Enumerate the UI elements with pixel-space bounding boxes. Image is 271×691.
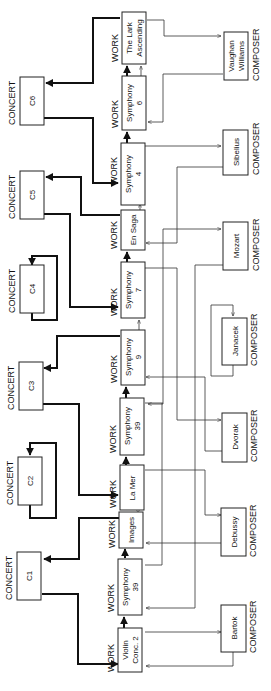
edge-c3-to-lamer: [42, 404, 118, 495]
concert-c1[interactable]: CONCERT C1: [4, 552, 41, 600]
concert-type-label: CONCERT: [4, 555, 14, 600]
edge-c6-to-sym4: [44, 118, 118, 183]
composer-name-line1: Mozart: [232, 233, 241, 258]
work-title-line1: Symphony: [124, 271, 133, 309]
composer-type-label: COMPOSER: [249, 409, 259, 462]
edge-sym7-to-dvorak: [145, 268, 221, 420]
work-title-line2: 39: [131, 582, 140, 591]
work-title-line2: 9: [134, 354, 143, 359]
work-title-line1: Symphony: [123, 407, 132, 445]
edge-dvorak-to-sym9: [146, 377, 223, 451]
work-type-label: WORK: [109, 221, 119, 249]
edge-vw-to-sym6: [148, 74, 223, 122]
composer-name-line1: Janacek: [231, 325, 240, 356]
work-type-label: WORK: [109, 157, 119, 185]
concert-c3[interactable]: CONCERT C3: [6, 362, 43, 410]
concert-id: C2: [26, 475, 35, 486]
work-type-label: WORK: [106, 644, 116, 672]
composer-bartok[interactable]: Bartok COMPOSER: [221, 600, 258, 653]
edge-mozart-to-sym39b: [146, 265, 223, 608]
concert-type-label: CONCERT: [7, 80, 17, 125]
composer-janacek[interactable]: Janacek COMPOSER: [222, 313, 259, 366]
work-symphony-4[interactable]: WORK Symphony 4: [109, 143, 145, 205]
work-title-line1: Images: [127, 517, 136, 543]
composer-name-line1: Debussy: [230, 516, 239, 547]
composer-name-line1: Sibelius: [232, 138, 241, 166]
work-type-label: WORK: [106, 584, 116, 612]
work-title-line1: En Saga: [129, 214, 138, 245]
work-type-label: WORK: [108, 425, 118, 453]
work-violin-concerto-2[interactable]: WORK Violin Conc. 2: [106, 628, 142, 672]
concert-id: C5: [28, 189, 37, 200]
concert-c6[interactable]: CONCERT C6: [7, 77, 44, 125]
work-title-line1: La Mer: [128, 475, 137, 500]
work-title-line1: Symphony: [125, 84, 134, 122]
work-title-line2: 39: [133, 421, 142, 430]
edge-lark-to-vw: [147, 20, 221, 36]
composer-sibelius[interactable]: Sibelius COMPOSER: [223, 122, 261, 175]
concert-type-label: CONCERT: [7, 268, 17, 313]
concert-id: C3: [27, 380, 36, 391]
composer-name-line2: Williams: [237, 41, 246, 71]
work-title-line2: Ascending: [135, 19, 144, 56]
work-title-line2: 7: [134, 287, 143, 292]
composer-name-line1: Vaughan: [227, 40, 236, 71]
work-title-line2: 4: [134, 171, 143, 176]
concert-type-label: CONCERT: [6, 365, 16, 410]
work-type-label: WORK: [110, 100, 120, 128]
concert-type-label: CONCERT: [7, 174, 17, 219]
composer-vaughan-williams[interactable]: Vaughan Williams COMPOSER: [224, 28, 261, 81]
work-type-label: WORK: [109, 355, 119, 383]
work-title-line1: Symphony: [121, 568, 130, 606]
composer-type-label: COMPOSER: [249, 313, 259, 366]
concert-work-composer-diagram: CONCERT C6 CONCERT C5 CONCERT C4 CONCERT…: [0, 0, 271, 691]
concert-type-label: CONCERT: [5, 460, 15, 505]
work-type-label: WORK: [110, 34, 120, 62]
composer-type-label: COMPOSER: [251, 122, 261, 175]
composer-type-label: COMPOSER: [251, 218, 261, 271]
work-type-label: WORK: [107, 520, 117, 548]
work-title-line2: Conc. 2: [131, 636, 140, 664]
work-title-line2: 6: [135, 100, 144, 105]
concert-c4[interactable]: CONCERT C4: [7, 265, 44, 313]
work-type-label: WORK: [108, 480, 118, 508]
edge-bartok-to-violin: [146, 652, 233, 666]
work-title-line1: Symphony: [124, 338, 133, 376]
composer-debussy[interactable]: Debussy COMPOSER: [221, 504, 258, 557]
work-symphony-9[interactable]: WORK Symphony 9: [109, 330, 145, 385]
work-symphony-6[interactable]: WORK Symphony 6: [110, 76, 146, 130]
edge-lamer-to-debussy: [145, 470, 221, 515]
work-symphony-39-b[interactable]: WORK Symphony 39: [106, 559, 142, 615]
composer-mozart[interactable]: Mozart COMPOSER: [223, 218, 261, 271]
work-type-label: WORK: [109, 288, 119, 316]
composer-type-label: COMPOSER: [251, 28, 261, 81]
composer-name-line1: Bartok: [230, 615, 239, 639]
edge-c5-to-sym7: [44, 214, 118, 307]
work-title-line1: Symphony: [124, 155, 133, 193]
edge-lark-to-c6: [46, 18, 120, 83]
concert-id: C6: [28, 95, 37, 106]
concert-c2[interactable]: CONCERT C2: [5, 457, 42, 505]
composer-type-label: COMPOSER: [248, 600, 258, 653]
concert-c5[interactable]: CONCERT C5: [7, 171, 44, 219]
composer-type-label: COMPOSER: [248, 504, 258, 557]
edge-sibelius-to-ensaga: [146, 167, 223, 243]
work-symphony-7[interactable]: WORK Symphony 7: [109, 262, 145, 318]
composer-dvorak[interactable]: Dvorak COMPOSER: [222, 409, 259, 462]
composer-name-line1: Dvorak: [231, 423, 240, 449]
work-symphony-39-a[interactable]: WORK Symphony 39: [108, 398, 144, 455]
work-title-line1: The Lark: [125, 21, 134, 54]
work-lark-ascending[interactable]: WORK The Lark Ascending: [110, 12, 146, 64]
edge-mozart-vertical-a: [148, 229, 163, 404]
work-la-mer[interactable]: WORK La Mer: [108, 465, 144, 510]
work-title-line1: Violin: [121, 640, 130, 659]
concert-id: C1: [25, 570, 34, 581]
concert-id: C4: [28, 283, 37, 294]
edge-sym39b-to-mozart: [145, 403, 162, 565]
